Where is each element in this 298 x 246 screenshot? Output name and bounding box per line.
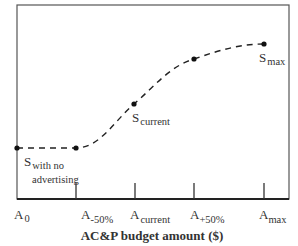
point-a-plus-50 [191, 56, 196, 61]
xtick-a-current: Acurrent [130, 207, 170, 225]
label-s-current: Scurrent [132, 110, 170, 127]
xtick-a-minus-50: A-50% [81, 207, 113, 225]
xtick-a-max: Amax [259, 207, 287, 225]
data-points [14, 41, 266, 150]
point-s-max [261, 41, 266, 46]
xtick-a0: A0 [14, 207, 30, 224]
point-s-no-advertising [14, 145, 19, 150]
sales-response-chart: Swith no advertising Scurrent Smax A0 A-… [0, 0, 298, 246]
label-s-no-advertising: Swith no [24, 154, 64, 171]
x-axis-title: AC&P budget amount ($) [81, 228, 224, 243]
label-advertising: advertising [32, 174, 79, 185]
sales-response-curve [17, 44, 264, 148]
xtick-a-plus-50: A+50% [190, 207, 225, 225]
x-ticks [76, 183, 264, 199]
point-s-current [131, 101, 136, 106]
point-a-minus-50 [73, 145, 78, 150]
label-s-max: Smax [259, 50, 286, 67]
